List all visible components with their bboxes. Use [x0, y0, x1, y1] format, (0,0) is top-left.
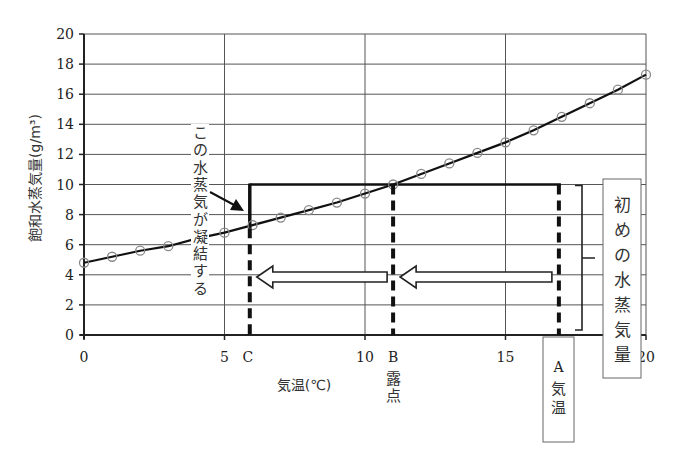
x-axis-title: 気温(℃) [277, 377, 332, 393]
condense-note-char: す [193, 262, 208, 280]
reference-dashed-lines [250, 185, 559, 336]
air-temp-char: 気 [551, 380, 566, 398]
y-tick-label: 6 [65, 237, 74, 253]
y-tick-label: 8 [65, 207, 74, 223]
arrow-b-to-c [257, 266, 387, 288]
dew-point-char: 点 [386, 387, 401, 405]
condense-note-char: 蒸 [193, 176, 208, 194]
y-tick-label: 14 [56, 116, 74, 132]
y-tick-label: 0 [65, 327, 74, 343]
condense-note-char: 凝 [193, 228, 208, 246]
y-tick-label: 12 [56, 146, 74, 162]
pointer-arrow-shaft [210, 192, 236, 206]
saturation-vapor-chart: 0246810121416182005101520 この水蒸気が凝結するCB露点… [0, 0, 680, 462]
y-axis-title: 飽和水蒸気量(g/m³) [27, 114, 43, 242]
point-a-label: A [552, 359, 564, 375]
condense-note-char: 気 [193, 193, 208, 211]
hollow-arrows [257, 266, 552, 288]
x-tick-label: 5 [220, 349, 229, 365]
point-c-label: C [242, 349, 253, 365]
dew-point-char: 露 [386, 370, 401, 388]
x-tick-label: 10 [356, 349, 374, 365]
arrow-a-to-b [400, 266, 552, 288]
condense-note-char: こ [193, 124, 208, 142]
initial-vapor-level-lines [250, 184, 561, 229]
initial-vapor-char: 水 [614, 270, 631, 290]
condense-note-char: る [193, 280, 208, 298]
condense-note-char: 結 [193, 245, 208, 263]
initial-vapor-char: 蒸 [614, 295, 631, 315]
condense-note-char: 水 [193, 159, 208, 177]
chart-axes [80, 34, 646, 339]
initial-vapor-char: の [614, 245, 631, 265]
y-tick-label: 10 [56, 177, 74, 193]
initial-vapor-char: 気 [614, 320, 631, 340]
y-tick-label: 18 [56, 56, 74, 72]
y-tick-label: 2 [65, 297, 74, 313]
x-tick-label: 15 [497, 349, 515, 365]
y-tick-label: 4 [65, 267, 74, 283]
initial-vapor-char: 量 [614, 345, 631, 365]
x-tick-label: 0 [80, 349, 89, 365]
air-temp-char: 温 [551, 399, 566, 417]
point-b-label: B [388, 349, 398, 365]
initial-vapor-bracket [575, 186, 595, 331]
condense-note-char: の [193, 141, 208, 159]
initial-vapor-char: 初 [614, 195, 631, 215]
y-tick-label: 16 [56, 86, 74, 102]
y-tick-label: 20 [56, 26, 74, 42]
condense-note-char: が [193, 211, 208, 229]
initial-vapor-char: め [614, 220, 631, 240]
